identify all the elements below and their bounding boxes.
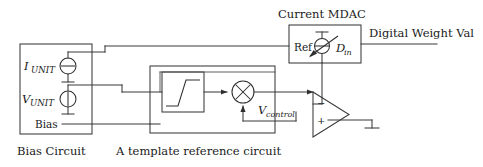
vcontrol-label-sub: control	[266, 110, 295, 119]
sigmoid-transfer-block	[162, 72, 204, 112]
din-label-sub: in	[344, 48, 352, 57]
bias-circuit-block: I UNIT V UNIT Bias	[20, 44, 92, 134]
iunit-label-main: I	[23, 59, 29, 73]
current-mdac-block: Current MDAC Ref D in Digital Weight Val	[278, 7, 474, 63]
sigmoid-curve-icon	[166, 80, 200, 106]
adjustable-current-source	[309, 32, 338, 63]
opamp: − +	[313, 92, 379, 137]
voltage-source-vunit	[60, 85, 76, 114]
template-circuit-caption: A template reference circuit	[115, 144, 281, 158]
mdac-title: Current MDAC	[278, 7, 366, 21]
bias-label: Bias	[35, 118, 58, 130]
opamp-plus-label: +	[317, 115, 325, 126]
vunit-label-sub: UNIT	[30, 98, 55, 108]
circuit-canvas: I UNIT V UNIT Bias	[0, 0, 483, 167]
digital-weight-label: Digital Weight Val	[369, 26, 474, 40]
current-source-iunit	[60, 52, 76, 82]
iunit-label-sub: UNIT	[31, 65, 56, 75]
mdac-ref-label: Ref	[294, 41, 313, 53]
multiplier-node	[232, 81, 254, 103]
template-reference-circuit-block	[150, 66, 296, 133]
circuit-figure: I UNIT V UNIT Bias	[0, 0, 483, 167]
template-circuit-outline	[150, 66, 275, 133]
ground-symbol	[365, 120, 379, 128]
bias-circuit-caption: Bias Circuit	[17, 144, 86, 158]
